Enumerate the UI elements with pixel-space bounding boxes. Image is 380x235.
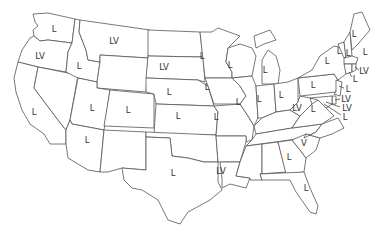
label-la: LV: [216, 166, 226, 176]
label-ne: L: [167, 87, 172, 97]
state-ri[interactable]: [352, 64, 356, 72]
label-in: L: [257, 94, 262, 104]
label-wa: L: [52, 24, 57, 34]
label-or: LV: [35, 51, 45, 61]
label-ri: LV: [359, 66, 369, 76]
label-id: L: [77, 61, 82, 71]
label-ca: L: [32, 107, 37, 117]
label-me: L: [352, 29, 357, 39]
label-az: L: [85, 135, 90, 145]
label-wv: LV: [292, 103, 302, 113]
label-ks: L: [176, 111, 181, 121]
label-pa: L: [311, 80, 316, 90]
label-wi: L: [228, 60, 233, 70]
state-fl[interactable]: [260, 172, 318, 214]
state-nm[interactable]: [100, 130, 146, 172]
label-mi: L: [263, 65, 268, 75]
label-va: L: [311, 104, 316, 114]
label-mo: L: [214, 112, 219, 122]
state-nd[interactable]: [148, 30, 203, 57]
label-ma: L: [363, 47, 368, 57]
label-sc: V: [301, 138, 307, 148]
label-oh: L: [279, 90, 284, 100]
state-wy[interactable]: [97, 55, 148, 92]
state-ks[interactable]: [154, 104, 218, 135]
us-map: L LV L L LV L L L LV L L L L L L LV L L …: [0, 0, 380, 235]
label-tx: L: [171, 168, 176, 178]
label-nh: L: [346, 48, 351, 58]
label-ga: L: [287, 152, 292, 162]
label-dc: L: [343, 112, 348, 122]
label-co: L: [126, 105, 131, 115]
label-mn: L: [200, 51, 205, 61]
label-vt: L: [337, 46, 342, 56]
label-ct: L: [353, 74, 358, 84]
label-mt: LV: [109, 36, 119, 46]
label-il: L: [236, 97, 241, 107]
label-nj: L: [346, 84, 351, 94]
label-ut: L: [90, 103, 95, 113]
state-mi[interactable]: [254, 30, 280, 84]
label-fl: L: [304, 183, 309, 193]
label-ny: L: [325, 56, 330, 66]
label-ia: L: [205, 82, 210, 92]
label-sd: LV: [159, 62, 169, 72]
